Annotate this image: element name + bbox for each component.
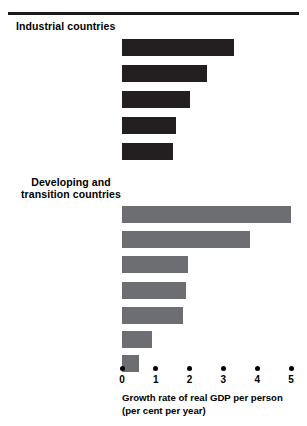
bar-value — [122, 307, 183, 324]
axis-tick-label: 2 — [180, 374, 200, 385]
section-heading-developing-line2: transition countries — [21, 188, 121, 200]
axis-tick-dot — [120, 366, 125, 371]
bar-value — [122, 39, 234, 56]
axis-tick-label: 3 — [213, 374, 233, 385]
section-heading-developing: Developing and transition countries — [16, 176, 126, 200]
bar-value — [122, 231, 250, 248]
top-divider — [8, 12, 299, 15]
axis-tick-label: 5 — [281, 374, 301, 385]
x-axis: 012345 — [0, 366, 307, 392]
bar-value — [122, 331, 152, 348]
axis-tick-label: 0 — [112, 374, 132, 385]
section-heading-developing-line1: Developing and — [31, 176, 111, 188]
bar-value — [122, 256, 188, 273]
axis-tick-dot — [153, 366, 158, 371]
axis-tick-dot — [255, 366, 260, 371]
axis-tick-dot — [289, 366, 294, 371]
bar-value — [122, 143, 173, 160]
bar-value — [122, 117, 176, 134]
axis-tick-label: 4 — [247, 374, 267, 385]
axis-tick-label: 1 — [146, 374, 166, 385]
bar-value — [122, 65, 207, 82]
axis-tick-dot — [221, 366, 226, 371]
bar-value — [122, 91, 190, 108]
chart-figure: Industrial countries Developing and tran… — [0, 0, 307, 426]
bar-value — [122, 282, 186, 299]
section-heading-industrial: Industrial countries — [16, 20, 115, 32]
axis-tick-dot — [187, 366, 192, 371]
x-axis-title-line2: (per cent per year) — [122, 405, 302, 418]
x-axis-title: Growth rate of real GDP per person (per … — [122, 392, 302, 417]
bar-value — [122, 206, 291, 223]
x-axis-title-line1: Growth rate of real GDP per person — [122, 392, 302, 405]
